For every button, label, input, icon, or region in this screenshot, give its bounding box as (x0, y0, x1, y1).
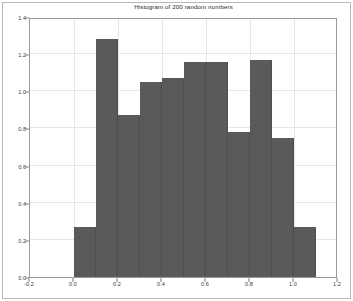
histogram-bar (74, 227, 96, 277)
x-axis-tick-mark (337, 278, 338, 282)
histogram-bar (162, 78, 184, 277)
histogram-bar (96, 39, 118, 277)
y-axis-tick-label: 0.6 (0, 164, 26, 170)
y-axis-tick-label: 0.4 (0, 201, 26, 207)
x-axis-tick-mark (161, 278, 162, 282)
histogram-bar (140, 82, 162, 277)
histogram-figure: Histogram of 200 random numbers 0.00.20.… (0, 0, 353, 301)
y-axis-tick-label: 0.8 (0, 126, 26, 132)
y-axis-tick-label: 1.4 (0, 15, 26, 21)
x-axis-tick-mark (29, 278, 30, 282)
page-title: Histogram of 200 random numbers (29, 3, 338, 10)
x-axis-tick-mark (73, 278, 74, 282)
y-axis-tick-mark (25, 129, 29, 130)
y-axis-tick-mark (25, 166, 29, 167)
y-axis-tick-label: 0.0 (0, 275, 26, 281)
x-axis-tick-mark (117, 278, 118, 282)
y-axis-tick-label: 1.0 (0, 89, 26, 95)
y-axis-tick-mark (25, 240, 29, 241)
x-axis-tick-mark (205, 278, 206, 282)
histogram-bar (250, 60, 272, 277)
y-axis-tick-mark (25, 18, 29, 19)
histogram-bar (294, 227, 316, 277)
histogram-bar (206, 62, 228, 277)
y-axis-tick-label: 1.2 (0, 52, 26, 58)
x-axis-tick-mark (249, 278, 250, 282)
y-axis-tick-mark (25, 55, 29, 56)
x-axis-tick-mark (293, 278, 294, 282)
y-axis-tick-mark (25, 92, 29, 93)
gridline-horizontal (30, 53, 336, 54)
histogram-bar (184, 62, 206, 277)
histogram-bar (272, 138, 294, 277)
plot-area (29, 18, 337, 278)
histogram-bar (118, 115, 140, 277)
y-axis-tick-label: 0.2 (0, 238, 26, 244)
histogram-bar (228, 132, 250, 277)
y-axis-tick-mark (25, 203, 29, 204)
